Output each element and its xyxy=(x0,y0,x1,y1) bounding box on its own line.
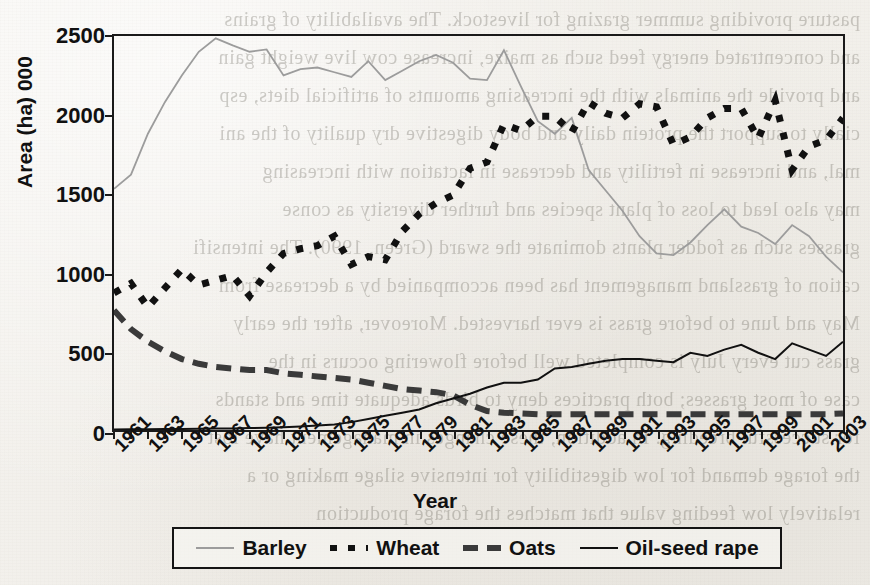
y-axis-tick-label: 500 xyxy=(68,341,105,367)
legend-item-wheat: Wheat xyxy=(329,536,439,560)
legend-item-barley: Barley xyxy=(195,536,306,560)
x-axis-title: Year xyxy=(0,489,870,513)
legend-item-oil-seed-rape: Oil-seed rape xyxy=(579,536,759,560)
series-line-oats xyxy=(114,310,843,414)
y-axis-tick-label: 2500 xyxy=(56,23,105,49)
chart-legend: Barley Wheat Oats Oil-seed rape xyxy=(172,527,782,569)
legend-label-oats: Oats xyxy=(509,536,556,560)
y-axis-tick-mark xyxy=(105,115,114,117)
y-axis-tick-label: 0 xyxy=(93,421,105,447)
legend-swatch-wheat xyxy=(329,541,369,555)
legend-label-barley: Barley xyxy=(242,536,306,560)
y-axis-tick-mark xyxy=(105,35,114,37)
legend-label-wheat: Wheat xyxy=(376,536,439,560)
legend-swatch-oil-seed-rape xyxy=(579,541,619,555)
y-axis-tick-mark xyxy=(105,353,114,355)
legend-item-oats: Oats xyxy=(462,536,556,560)
chart-plot-area: 0500100015002000250019611963196519671969… xyxy=(112,34,845,432)
y-axis-tick-label: 1500 xyxy=(56,182,105,208)
y-axis-tick-label: 2000 xyxy=(56,103,105,129)
chart-series-canvas xyxy=(114,36,843,430)
legend-label-oil-seed-rape: Oil-seed rape xyxy=(626,536,759,560)
y-axis-tick-mark xyxy=(105,274,114,276)
y-axis-tick-label: 1000 xyxy=(56,262,105,288)
legend-swatch-barley xyxy=(195,541,235,555)
y-axis-title: Area (ha) 000 xyxy=(13,22,37,222)
y-axis-tick-mark xyxy=(105,194,114,196)
series-line-barley xyxy=(114,38,843,272)
series-line-wheat xyxy=(114,101,843,307)
legend-swatch-oats xyxy=(462,541,502,555)
